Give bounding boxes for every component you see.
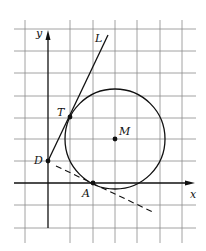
label-T: T [57,106,66,119]
coordinate-diagram: y x L D T M A [0,0,206,251]
point-M [113,137,118,142]
label-A: A [81,187,90,200]
y-axis-label: y [35,27,43,40]
y-axis-arrow-icon [46,30,51,40]
label-L: L [94,32,102,45]
point-A [91,181,96,186]
label-M: M [118,125,131,138]
tangent-line-at-A [56,166,155,213]
point-T [68,115,73,120]
grid [14,20,196,243]
x-axis-label: x [190,188,197,201]
line-L [48,35,108,161]
x-axis-arrow-icon [185,181,195,186]
point-D [46,159,51,164]
label-D: D [33,154,43,167]
axes: y x [14,27,197,228]
